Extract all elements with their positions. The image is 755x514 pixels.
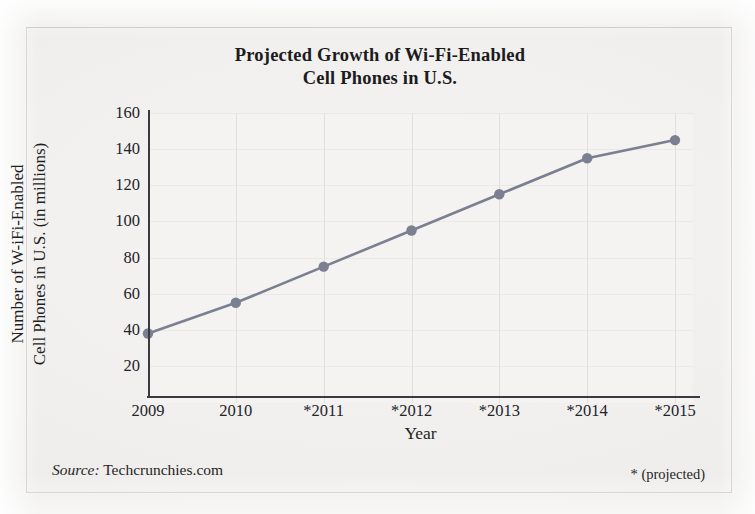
- data-series-line: [148, 113, 693, 403]
- data-point-marker: [231, 298, 241, 308]
- x-axis-tick-label: *2011: [279, 401, 369, 421]
- data-point-marker: [670, 135, 680, 145]
- y-axis-line: [148, 110, 150, 398]
- x-axis-tick-label: *2012: [367, 401, 457, 421]
- y-axis-tick-label: 60: [98, 286, 140, 303]
- data-point-marker: [582, 153, 592, 163]
- x-axis-title: Year: [148, 423, 693, 444]
- y-axis-tick-label: 80: [98, 250, 140, 267]
- y-axis-tick-label: 160: [98, 105, 140, 122]
- data-point-marker: [406, 225, 416, 235]
- projected-footnote: * (projected): [631, 466, 705, 483]
- data-point-marker: [319, 261, 329, 271]
- x-axis-tick-label: *2013: [454, 401, 544, 421]
- y-axis-tick-label: 20: [98, 358, 140, 375]
- source-label: Source:: [52, 461, 100, 478]
- plot-area: [148, 113, 693, 403]
- series-polyline: [148, 140, 675, 333]
- x-axis-tick-label: *2015: [630, 401, 720, 421]
- x-axis-tick-label: 2010: [191, 401, 281, 421]
- source-value: Techcrunchies.com: [100, 461, 223, 478]
- x-axis-line: [147, 396, 700, 398]
- chart-title-line-1: Projected Growth of Wi-Fi-Enabled: [120, 44, 640, 67]
- chart-title: Projected Growth of Wi-Fi-Enabled Cell P…: [120, 44, 640, 90]
- x-axis-tick-label: *2014: [542, 401, 632, 421]
- y-axis-tick-label: 100: [98, 213, 140, 230]
- source-note: Source: Techcrunchies.com: [52, 461, 223, 479]
- chart-page: Projected Growth of Wi-Fi-Enabled Cell P…: [0, 0, 755, 514]
- y-axis-tick-label: 140: [98, 141, 140, 158]
- chart-title-line-2: Cell Phones in U.S.: [120, 67, 640, 90]
- data-point-marker: [494, 189, 504, 199]
- y-axis-tick-label: 120: [98, 177, 140, 194]
- y-axis-tick-labels: 16014012010080604020: [92, 0, 140, 514]
- x-axis-tick-label: 2009: [103, 401, 193, 421]
- y-axis-tick-label: 40: [98, 322, 140, 339]
